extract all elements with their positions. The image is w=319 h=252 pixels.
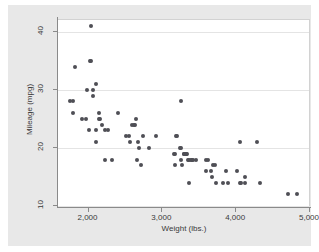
data-point [94, 140, 98, 144]
x-tick-4000 [235, 208, 236, 212]
data-point [91, 88, 95, 92]
data-point [258, 181, 262, 185]
data-point [73, 65, 77, 69]
data-point [179, 158, 183, 162]
data-point [173, 152, 177, 156]
data-point [213, 163, 217, 167]
data-point [103, 158, 107, 162]
x-tick-label-3000: 3,000 [141, 213, 181, 222]
plot-area [58, 19, 310, 206]
data-point [71, 99, 75, 103]
y-tick-label-20: 20 [36, 136, 45, 156]
data-point [134, 117, 138, 121]
x-tick-label-2000: 2,000 [68, 213, 108, 222]
data-point [221, 181, 225, 185]
data-point [238, 140, 242, 144]
data-point [179, 146, 183, 150]
data-point [180, 163, 184, 167]
data-point [154, 134, 158, 138]
gridline-y-30 [58, 90, 309, 91]
data-point [94, 128, 98, 132]
data-point [194, 158, 198, 162]
data-point [89, 59, 93, 63]
data-point [91, 94, 95, 98]
data-point [243, 181, 247, 185]
x-tick-label-4000: 4,000 [215, 213, 255, 222]
y-axis-line [57, 17, 58, 208]
data-point [135, 158, 139, 162]
data-point [85, 88, 89, 92]
x-axis-line [57, 207, 311, 208]
x-tick-2000 [88, 208, 89, 212]
data-point [110, 158, 114, 162]
data-point [206, 158, 210, 162]
y-tick-20 [53, 147, 57, 148]
data-point [128, 140, 132, 144]
data-point [139, 163, 143, 167]
y-tick-10 [53, 205, 57, 206]
data-point [97, 111, 101, 115]
data-point [243, 175, 247, 179]
data-point [210, 175, 214, 179]
x-tick-label-5000: 5,000 [289, 213, 319, 222]
y-tick-label-10: 10 [36, 195, 45, 215]
y-axis-title: Mileage (mpg) [25, 65, 34, 155]
data-point [185, 152, 189, 156]
data-point [84, 117, 88, 121]
data-point [94, 82, 98, 86]
data-point [286, 192, 290, 196]
x-tick-3000 [161, 208, 162, 212]
data-point [204, 169, 208, 173]
data-point [98, 117, 102, 121]
data-point [127, 134, 131, 138]
graph-region: 10203040 2,0003,0004,0005,000 Mileage (m… [8, 5, 311, 246]
y-tick-label-40: 40 [36, 20, 45, 40]
data-point [87, 128, 91, 132]
data-point [295, 192, 299, 196]
data-point [106, 128, 110, 132]
data-point [255, 140, 259, 144]
gridline-y-40 [58, 32, 309, 33]
data-point [175, 134, 179, 138]
data-point [179, 99, 183, 103]
data-point [147, 146, 151, 150]
data-point [226, 181, 230, 185]
data-point [173, 163, 177, 167]
data-point [214, 181, 218, 185]
y-tick-30 [53, 89, 57, 90]
x-tick-5000 [309, 208, 310, 212]
data-point [141, 134, 145, 138]
chart-screenshot: 10203040 2,0003,0004,0005,000 Mileage (m… [0, 0, 319, 252]
x-axis-title: Weight (lbs.) [58, 224, 310, 233]
data-point [100, 123, 104, 127]
data-point [89, 24, 93, 28]
data-point [137, 146, 141, 150]
y-tick-40 [53, 31, 57, 32]
data-point [133, 123, 137, 127]
y-tick-label-30: 30 [36, 78, 45, 98]
data-point [235, 169, 239, 173]
gridline-y-20 [58, 148, 309, 149]
data-point [71, 111, 75, 115]
data-point [116, 111, 120, 115]
data-point [224, 169, 228, 173]
data-point [209, 169, 213, 173]
data-point [136, 140, 140, 144]
data-point [187, 181, 191, 185]
